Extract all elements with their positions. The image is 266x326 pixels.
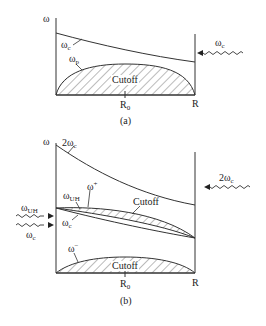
panel-b-y-axis-label: ω: [43, 137, 50, 147]
panel-a-cutoff-label: Cutoff: [111, 75, 139, 85]
panel-b-caption: (b): [120, 296, 132, 306]
panel-b-wave-2wc-icon: [206, 186, 250, 189]
panel-b-wave-uh-label: ωUH: [21, 203, 38, 215]
panel-a-wp-label: ωp: [69, 54, 79, 66]
panel-b-wave-c-label: ωc: [26, 230, 36, 242]
panel-b-wuh-label: ωUH: [63, 191, 80, 203]
panel-b-arrowhead-c-icon: [48, 222, 54, 228]
panel-a-y-axis-label: ω: [43, 14, 50, 24]
panel-b-wplus-label: ω+: [87, 181, 98, 192]
panel-b-cutoff-leader: [132, 206, 140, 214]
panel-a-wc-leader: [73, 39, 82, 45]
panel-b-wminus-label: ω−: [68, 243, 79, 254]
panel-b-wave-c-icon: [16, 224, 44, 227]
panel-a-caption: (a): [120, 116, 131, 126]
panel-a-r0-label: R0: [120, 100, 130, 112]
panel-a-wave-icon: [199, 52, 243, 55]
panel-b-wave-2wc-label: 2ωc: [219, 173, 234, 185]
panel-a-wave-label: ωc: [215, 38, 225, 50]
panel-b-r-label: R: [192, 278, 199, 288]
panel-b-wplus-leader: [88, 190, 90, 207]
panel-b-arrowhead-2wc-icon: [204, 184, 210, 190]
panel-b-arrowhead-uh-icon: [48, 213, 54, 219]
figure-canvas: [0, 0, 266, 326]
panel-b-upper-cutoff-label: Cutoff: [133, 197, 159, 207]
panel-a-arrowhead-icon: [197, 50, 203, 56]
panel-a-r-label: R: [192, 99, 199, 109]
panel-b-r0-label: R0: [120, 279, 130, 291]
panel-b: [16, 143, 250, 277]
panel-b-wminus-leader: [74, 253, 78, 262]
panel-b-wc-leader: [72, 215, 78, 220]
panel-a: [56, 18, 243, 98]
panel-b-lower-cutoff-label: Cutoff: [111, 261, 139, 271]
panel-b-wc-label: ωc: [62, 218, 72, 230]
panel-a-wc-label: ωc: [61, 40, 71, 52]
panel-b-upper-cutoff-region: [56, 208, 195, 238]
panel-b-2wc-label: 2ωc: [62, 138, 77, 150]
